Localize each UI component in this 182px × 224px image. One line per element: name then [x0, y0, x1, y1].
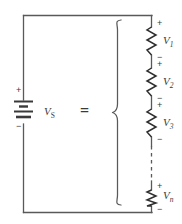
resistor-n-label-sub: n	[170, 195, 174, 204]
resistor-n-label: Vn	[163, 190, 173, 204]
resistor-3-zigzag	[147, 109, 156, 137]
resistor-3-label: V3	[163, 117, 173, 131]
resistor-2-label-sub: 2	[170, 81, 174, 90]
source-plus-sign: +	[16, 86, 21, 95]
battery-symbol	[14, 102, 33, 118]
resistor-n-plus-sign: +	[157, 182, 162, 191]
source-label: VS	[44, 106, 55, 120]
source-minus-sign: −	[16, 122, 21, 131]
resistor-1-label: V1	[163, 35, 173, 49]
circuit-schematic-canvas	[0, 0, 182, 224]
resistor-2-zigzag	[147, 68, 156, 96]
resistor-3-label-v: V	[163, 116, 170, 128]
equals-sign: =	[80, 103, 89, 119]
source-label-sub: S	[51, 111, 55, 120]
resistor-n-minus-sign: −	[157, 205, 162, 214]
resistor-2-label-v: V	[163, 75, 170, 87]
resistor-1-label-v: V	[163, 34, 170, 46]
resistor-2-label: V2	[163, 76, 173, 90]
resistor-3-label-sub: 3	[170, 122, 174, 131]
resistor-3-minus-sign: −	[157, 135, 162, 144]
resistor-1-zigzag	[147, 27, 156, 55]
circuit-diagram-figure: + − VS = + V1 − + V2 − + V3 − + Vn −	[0, 0, 182, 224]
resistor-3-plus-sign: +	[157, 101, 162, 110]
source-label-v: V	[44, 105, 51, 117]
resistor-2-plus-sign: +	[157, 60, 162, 69]
resistor-1-plus-sign: +	[157, 19, 162, 28]
resistor-n-label-v: V	[163, 189, 170, 201]
resistor-n-zigzag	[147, 190, 156, 206]
curly-brace	[113, 20, 122, 205]
resistor-1-label-sub: 1	[170, 40, 174, 49]
